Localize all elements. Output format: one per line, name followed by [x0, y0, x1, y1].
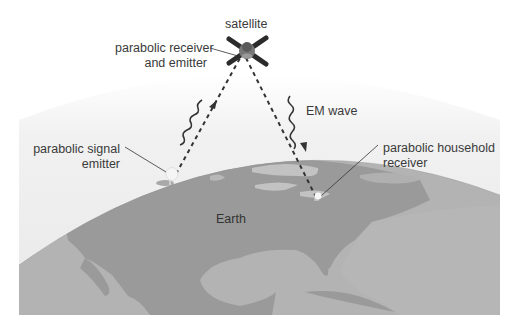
receiver-label-line2: receiver: [383, 156, 427, 171]
em-wave-label: EM wave: [306, 104, 357, 119]
receiver-label-line1: parabolic household: [383, 141, 495, 156]
satellite-dish-leader: [210, 48, 238, 56]
emitter-label-line2: emitter: [30, 157, 120, 172]
satellite-dish-label-line1: parabolic receiver: [115, 41, 207, 56]
satellite-dish-label-line2: and emitter: [115, 56, 207, 71]
satellite-label: satellite: [225, 17, 267, 32]
satellite-diagram: satellite parabolic receiver and emitter…: [0, 0, 514, 330]
emitter-label-line1: parabolic signal: [30, 142, 120, 157]
earth-label: Earth: [216, 212, 246, 227]
